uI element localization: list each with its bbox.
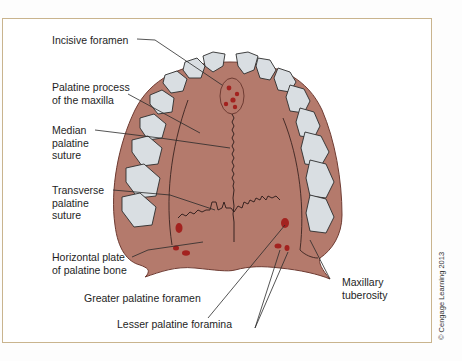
lesser-palatine-foramen xyxy=(285,245,290,251)
label-incisive-foramen: Incisive foramen xyxy=(52,34,128,47)
label-transverse-palatine-suture: Transverse palatine suture xyxy=(52,184,104,222)
label-horizontal-plate: Horizontal plate of palatine bone xyxy=(52,251,127,276)
incisive-foramen xyxy=(220,78,244,114)
label-lesser-palatine-foramina: Lesser palatine foramina xyxy=(117,318,232,331)
greater-palatine-foramen-right xyxy=(281,218,289,228)
label-maxillary-tuberosity: Maxillary tuberosity xyxy=(342,276,388,301)
lesser-palatine-foramen xyxy=(182,250,190,256)
label-median-palatine-suture: Median palatine suture xyxy=(52,124,89,162)
label-greater-palatine-foramen: Greater palatine foramen xyxy=(84,292,201,305)
lesser-palatine-foramen xyxy=(275,244,282,249)
label-palatine-process: Palatine process of the maxilla xyxy=(52,81,130,106)
greater-palatine-foramen-left xyxy=(176,223,183,233)
palate-diagram xyxy=(0,0,462,361)
copyright-notice: © Cengage Learning 2013 xyxy=(437,252,446,340)
